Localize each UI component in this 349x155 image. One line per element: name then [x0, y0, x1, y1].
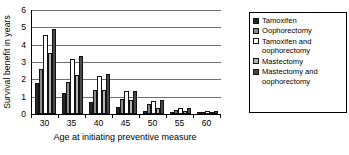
bar-group — [35, 10, 57, 114]
legend-item-label: Mastectomy — [262, 57, 303, 66]
legend-swatch-icon — [253, 38, 259, 44]
bar — [79, 56, 83, 114]
x-axis-tick — [220, 114, 221, 118]
chart-legend: TamoxifenOophorectomyTamoxifen and oopho… — [249, 12, 347, 113]
y-axis-tick-label: 3 — [21, 58, 26, 67]
legend-item[interactable]: Tamoxifen and oophorectomy — [253, 37, 344, 56]
legend-item[interactable]: Mastectomy — [253, 57, 344, 66]
y-axis-tick-label: 6 — [21, 6, 26, 15]
x-axis-tick-label: 30 — [40, 118, 50, 128]
bar-groups — [32, 10, 221, 114]
bar — [160, 100, 164, 114]
x-axis-tick-label: 50 — [148, 118, 158, 128]
bar-group — [62, 10, 84, 114]
legend-item-label: Oophorectomy — [262, 26, 312, 35]
y-axis-tick-label: 4 — [21, 40, 26, 49]
legend-swatch-icon — [253, 18, 259, 24]
x-axis-tick — [112, 114, 113, 118]
x-axis-tick — [31, 114, 32, 118]
y-axis-tick-label: 2 — [21, 75, 26, 84]
x-axis-tick-label: 35 — [67, 118, 77, 128]
x-axis-tick-label: 60 — [202, 118, 212, 128]
bar — [106, 74, 110, 114]
legend-swatch-icon — [253, 58, 259, 64]
legend-item[interactable]: Mastectomy and oophorectomy — [253, 67, 344, 86]
legend-item[interactable]: Tamoxifen — [253, 16, 344, 25]
bar — [52, 29, 56, 114]
legend-swatch-icon — [253, 28, 259, 34]
legend-item[interactable]: Oophorectomy — [253, 26, 344, 35]
plot-area — [31, 10, 221, 115]
y-axis-title: Survival benefit in years — [0, 0, 14, 124]
bar-group — [89, 10, 111, 114]
x-axis-tick — [193, 114, 194, 118]
x-axis-tick-label: 40 — [94, 118, 104, 128]
bar-group — [116, 10, 138, 114]
x-axis-tick — [166, 114, 167, 118]
legend-item-label: Tamoxifen and oophorectomy — [262, 37, 311, 56]
x-axis-tick-labels: 30354045505560 — [31, 118, 221, 130]
bar-chart-figure: Survival benefit in years 0123456 303540… — [0, 0, 349, 155]
bar — [133, 91, 137, 114]
y-axis-title-text: Survival benefit in years — [2, 15, 12, 109]
x-axis-tick-label: 55 — [175, 118, 185, 128]
legend-item-label: Mastectomy and oophorectomy — [262, 67, 318, 86]
x-axis-tick-label: 45 — [121, 118, 131, 128]
bar-group — [197, 10, 219, 114]
legend-swatch-icon — [253, 69, 259, 75]
y-axis-tick-labels: 0123456 — [14, 10, 27, 114]
x-axis-title: Age at initiating preventive measure — [20, 132, 230, 142]
x-axis-tick — [58, 114, 59, 118]
bar-group — [170, 10, 192, 114]
x-axis-tick — [139, 114, 140, 118]
legend-item-label: Tamoxifen — [262, 16, 297, 25]
y-axis-tick-label: 1 — [21, 92, 26, 101]
y-axis-tick-label: 5 — [21, 23, 26, 32]
x-axis-tick — [85, 114, 86, 118]
y-axis-tick-label: 0 — [21, 110, 26, 119]
bar-group — [143, 10, 165, 114]
